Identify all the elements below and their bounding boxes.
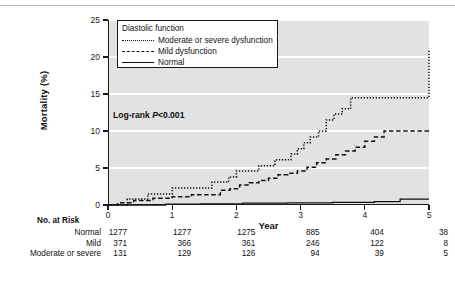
x-tick-label-2: 2 xyxy=(224,211,248,220)
curve-dashed xyxy=(108,131,429,205)
risk-cell: 366 xyxy=(151,238,191,249)
legend-item-dotted: Moderate or severe dysfunction xyxy=(122,35,277,46)
y-tick-label-0: 0 xyxy=(72,201,100,210)
risk-cell: 404 xyxy=(344,227,384,238)
x-tick-label-0: 0 xyxy=(96,211,120,220)
logrank-annotation: Log-rank P<0.001 xyxy=(113,110,184,120)
y-tick-mark-15 xyxy=(103,93,108,94)
legend-label: Moderate or severe dysfunction xyxy=(158,36,273,45)
risk-cell: 371 xyxy=(87,238,127,249)
risk-cell: 126 xyxy=(215,248,255,259)
legend-items: Moderate or severe dysfunctionMild dysfu… xyxy=(122,35,277,68)
legend-title: Diastolic function xyxy=(122,24,277,35)
y-tick-label-20: 20 xyxy=(72,53,100,62)
legend-label: Normal xyxy=(158,58,184,67)
y-axis-label: Mortality (%) xyxy=(38,41,49,161)
risk-cell: 39 xyxy=(344,248,384,259)
risk-row: Mild3713663612461228 xyxy=(0,238,455,249)
risk-cell: 5 xyxy=(408,248,448,259)
x-tick-label-4: 4 xyxy=(353,211,377,220)
risk-cell: 38 xyxy=(408,227,448,238)
legend-swatch-dashed-icon xyxy=(122,47,154,55)
risk-cell: 361 xyxy=(215,238,255,249)
x-tick-label-1: 1 xyxy=(160,211,184,220)
curve-dotted xyxy=(108,50,429,205)
risk-cell: 8 xyxy=(408,238,448,249)
y-tick-mark-25 xyxy=(103,19,108,20)
y-tick-mark-10 xyxy=(103,130,108,131)
risk-cell: 885 xyxy=(280,227,320,238)
risk-cell: 1275 xyxy=(215,227,255,238)
numbers-at-risk-title: No. at Risk xyxy=(37,216,79,225)
legend: Diastolic function Moderate or severe dy… xyxy=(117,20,278,68)
risk-cell: 1277 xyxy=(87,227,127,238)
y-tick-label-15: 15 xyxy=(72,90,100,99)
risk-cell: 129 xyxy=(151,248,191,259)
risk-row: Normal12771277127588540438 xyxy=(0,227,455,238)
x-tick-label-3: 3 xyxy=(289,211,313,220)
legend-item-solid: Normal xyxy=(122,57,277,68)
y-tick-label-25: 25 xyxy=(72,16,100,25)
y-tick-label-5: 5 xyxy=(72,164,100,173)
legend-swatch-dotted-icon xyxy=(122,36,154,44)
risk-cell: 246 xyxy=(280,238,320,249)
legend-item-dashed: Mild dysfunction xyxy=(122,46,277,57)
kaplan-meier-figure: 0510152025 012345 Mortality (%) Year Dia… xyxy=(0,0,455,281)
risk-row: Moderate or severe13112912694395 xyxy=(0,248,455,259)
legend-label: Mild dysfunction xyxy=(158,47,217,56)
legend-swatch-solid-icon xyxy=(122,58,154,66)
logrank-prefix: Log-rank xyxy=(113,110,152,120)
risk-cell: 122 xyxy=(344,238,384,249)
y-tick-mark-5 xyxy=(103,167,108,168)
curve-solid xyxy=(108,199,429,205)
logrank-p-value: <0.001 xyxy=(158,110,185,120)
risk-cell: 1277 xyxy=(151,227,191,238)
risk-cell: 94 xyxy=(280,248,320,259)
risk-cell: 131 xyxy=(87,248,127,259)
y-tick-mark-20 xyxy=(103,56,108,57)
y-tick-label-10: 10 xyxy=(72,127,100,136)
x-tick-label-5: 5 xyxy=(417,211,441,220)
